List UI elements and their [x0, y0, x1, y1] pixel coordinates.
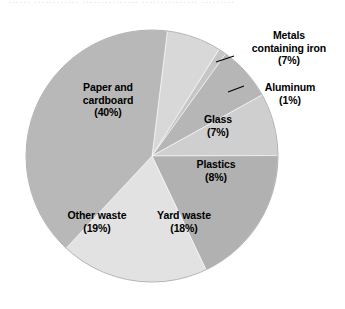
pie-label-other-percent: (19%): [57, 222, 137, 235]
pie-label-paper-percent: (40%): [62, 106, 154, 119]
pie-label-aluminum: Aluminum (1%): [246, 81, 334, 106]
pie-label-metals-line1: Metals: [237, 29, 341, 42]
pie-label-other-line1: Other waste: [57, 209, 137, 222]
pie-label-paper-line1: Paper and: [62, 81, 154, 94]
pie-label-paper-line2: cardboard: [62, 94, 154, 107]
pie-label-paper-and-cardboard: Paper and cardboard (40%): [62, 81, 154, 119]
pie-label-plastics-line1: Plastics: [185, 158, 247, 171]
pie-label-plastics: Plastics (8%): [185, 158, 247, 183]
pie-label-plastics-percent: (8%): [185, 171, 247, 184]
pie-label-glass: Glass (7%): [192, 113, 244, 138]
pie-label-metals-line2: containing iron: [237, 42, 341, 55]
pie-label-aluminum-percent: (1%): [246, 94, 334, 107]
pie-label-other-waste: Other waste (19%): [57, 209, 137, 234]
pie-label-metals-containing-iron: Metals containing iron (7%): [237, 29, 341, 67]
pie-chart-figure: …… ………… …………… …………… ……… Paper and cardbo…: [0, 0, 345, 309]
pie-label-metals-percent: (7%): [237, 54, 341, 67]
pie-slice-group: [26, 30, 278, 282]
pie-label-glass-percent: (7%): [192, 126, 244, 139]
pie-label-glass-line1: Glass: [192, 113, 244, 126]
pie-label-yard-line1: Yard waste: [146, 209, 222, 222]
pie-label-yard-percent: (18%): [146, 222, 222, 235]
pie-label-aluminum-line1: Aluminum: [246, 81, 334, 94]
pie-label-yard-waste: Yard waste (18%): [146, 209, 222, 234]
